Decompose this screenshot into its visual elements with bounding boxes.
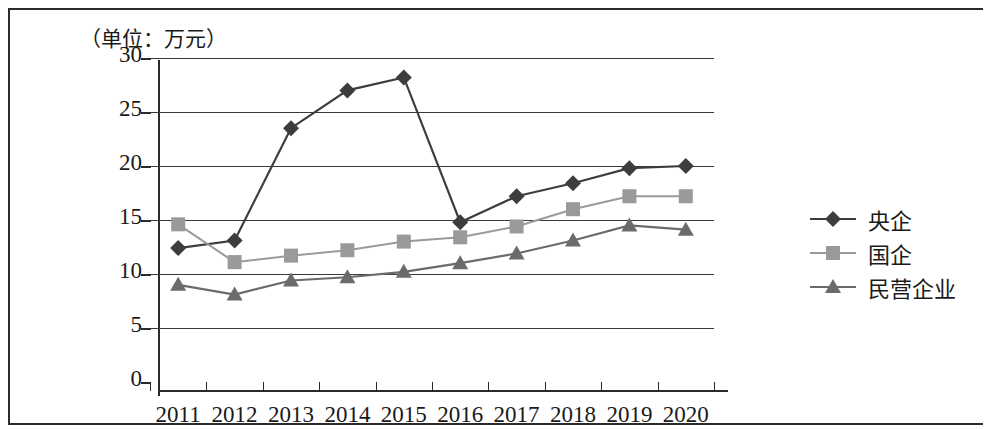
data-point-marker xyxy=(397,235,411,249)
data-point-marker xyxy=(565,175,581,191)
data-point-marker xyxy=(170,240,186,256)
series-line xyxy=(178,77,686,248)
legend-triangle-icon xyxy=(810,278,856,296)
chart-legend: 央企国企民营企业 xyxy=(810,202,956,304)
data-point-marker xyxy=(228,255,242,269)
data-point-marker xyxy=(227,233,243,249)
data-point-marker xyxy=(340,243,354,257)
series-triangle xyxy=(170,217,694,300)
legend-diamond-icon xyxy=(810,210,856,228)
legend-label: 国企 xyxy=(868,237,912,269)
legend-label: 民营企业 xyxy=(868,271,956,303)
data-point-marker xyxy=(679,189,693,203)
figure-frame: （单位：万元） 051015202530 2011201220132014201… xyxy=(8,8,983,425)
legend-marker xyxy=(825,211,841,227)
data-point-marker xyxy=(566,202,580,216)
data-point-marker xyxy=(825,279,841,293)
data-point-marker xyxy=(453,230,467,244)
legend-item[interactable]: 民营企业 xyxy=(810,270,956,304)
data-point-marker xyxy=(510,219,524,233)
legend-item[interactable]: 国企 xyxy=(810,236,956,270)
data-point-marker xyxy=(622,189,636,203)
data-point-marker xyxy=(171,217,185,231)
data-point-marker xyxy=(621,217,637,231)
legend-label: 央企 xyxy=(868,203,912,235)
series-line xyxy=(178,196,686,262)
legend-marker xyxy=(825,245,841,261)
data-point-marker xyxy=(452,214,468,230)
data-point-marker xyxy=(283,120,299,136)
data-point-marker xyxy=(509,188,525,204)
data-point-marker xyxy=(170,277,186,291)
data-point-marker xyxy=(825,211,841,227)
data-point-marker xyxy=(339,82,355,98)
data-point-marker xyxy=(284,249,298,263)
legend-marker xyxy=(825,279,841,295)
data-point-marker xyxy=(826,246,840,260)
data-point-marker xyxy=(678,158,694,174)
data-point-marker xyxy=(396,69,412,85)
data-point-marker xyxy=(621,160,637,176)
legend-item[interactable]: 央企 xyxy=(810,202,956,236)
legend-square-icon xyxy=(810,244,856,262)
